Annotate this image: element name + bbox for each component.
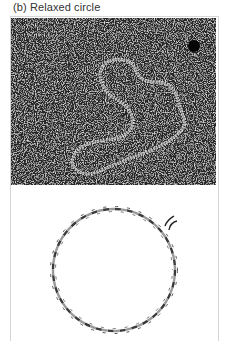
electron-micrograph — [11, 18, 216, 185]
relaxed-circle-schematic — [11, 186, 216, 346]
helix-outer-turns — [51, 207, 178, 334]
nick-icon — [165, 216, 177, 230]
double-helix-circle — [11, 186, 216, 346]
micrograph-image — [11, 18, 216, 185]
figure-label: (b) Relaxed circle — [13, 1, 100, 13]
particle-blob — [188, 40, 200, 52]
helix-inner-turns — [56, 212, 173, 329]
strand-light — [53, 209, 175, 331]
